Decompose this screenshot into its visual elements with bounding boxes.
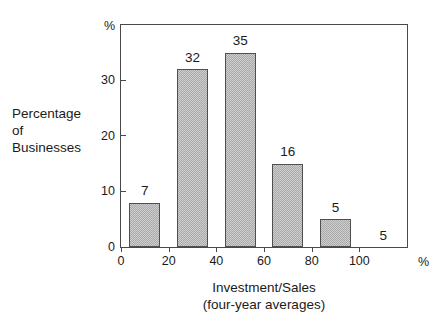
x-tick-mark <box>359 247 360 252</box>
bar-value-label: 35 <box>225 34 256 48</box>
y-tick-mark <box>121 80 126 81</box>
y-axis-title-line-1: Percentage <box>12 105 108 122</box>
y-axis-unit-label: % <box>104 20 115 33</box>
bar <box>177 69 208 247</box>
y-tick-mark <box>121 191 126 192</box>
bar <box>129 203 160 247</box>
x-tick-label: 80 <box>305 255 319 268</box>
plot-area: 7323516550102030020406080100 <box>121 25 407 247</box>
x-axis-unit-label: % <box>418 256 429 269</box>
y-axis-title-line-3: Businesses <box>12 139 108 156</box>
x-tick-label: 60 <box>257 255 271 268</box>
bar-value-label: 5 <box>320 201 351 215</box>
x-tick-mark <box>264 247 265 252</box>
bar <box>225 53 256 247</box>
bar <box>320 219 351 247</box>
x-tick-label: 100 <box>349 255 370 268</box>
plot-frame: 7323516550102030020406080100 <box>120 24 408 248</box>
x-tick-label: 40 <box>209 255 223 268</box>
y-axis-title: Percentage of Businesses <box>12 105 108 156</box>
x-axis-title-line-1: Investment/Sales <box>120 279 408 296</box>
y-axis-title-line-2: of <box>12 122 108 139</box>
y-tick-label: 30 <box>101 74 115 87</box>
x-tick-label: 20 <box>162 255 176 268</box>
bar-chart: Percentage of Businesses % 7323516550102… <box>0 0 448 322</box>
y-tick-mark <box>121 135 126 136</box>
bar-value-label: 32 <box>177 51 208 65</box>
bar-value-label: 7 <box>129 184 160 198</box>
bar-value-label: 5 <box>368 229 399 243</box>
x-tick-mark <box>169 247 170 252</box>
y-tick-label: 10 <box>101 185 115 198</box>
y-tick-label: 0 <box>108 241 115 254</box>
x-axis-title: Investment/Sales (four-year averages) <box>120 279 408 313</box>
y-tick-label: 20 <box>101 130 115 143</box>
x-tick-label: 0 <box>118 255 125 268</box>
x-tick-mark <box>312 247 313 252</box>
x-axis-title-line-2: (four-year averages) <box>120 296 408 313</box>
x-tick-mark <box>121 247 122 252</box>
bar <box>272 164 303 247</box>
bar-value-label: 16 <box>272 145 303 159</box>
x-tick-mark <box>216 247 217 252</box>
